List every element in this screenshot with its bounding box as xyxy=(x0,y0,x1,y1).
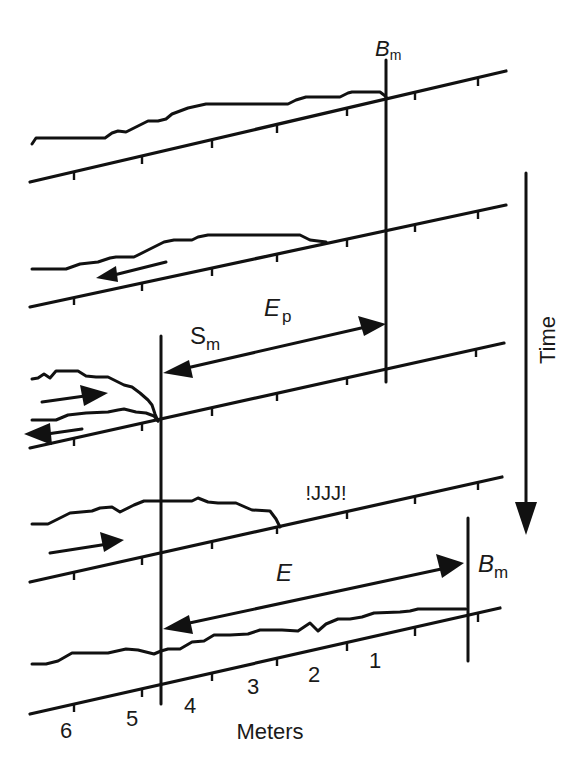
panel-3 xyxy=(24,343,504,448)
axis-tick-5: 5 xyxy=(126,706,138,731)
panel-4-profile xyxy=(32,498,280,527)
axis-tick-3: 3 xyxy=(247,674,259,699)
panel-5 xyxy=(30,608,500,714)
ep-arrow-head-left xyxy=(163,360,193,378)
panel-3-offshore-arrow-head xyxy=(24,423,52,445)
jjj-label: !JJJ! xyxy=(305,482,346,504)
panel-4: !JJJ! xyxy=(30,477,502,582)
panel-3-lower-profile xyxy=(32,409,158,421)
e-arrow-shaft xyxy=(180,568,446,625)
e-arrow-head-left xyxy=(163,615,193,634)
panel-2 xyxy=(30,205,506,307)
axis-tick-1: 1 xyxy=(369,648,381,673)
panel-3-onshore-arrow-head xyxy=(80,385,108,406)
panel-5-profile xyxy=(32,609,466,664)
time-arrow-head xyxy=(515,502,537,535)
time-axis: Time xyxy=(515,173,560,535)
panel-4-onshore-arrow-head xyxy=(100,532,124,552)
panel-1-baseline xyxy=(30,71,506,182)
axis-tick-2: 2 xyxy=(308,662,320,687)
beach-profile-diagram: Bm Ep Sm xyxy=(0,0,584,778)
e-arrow-head-right xyxy=(436,554,464,578)
time-label: Time xyxy=(535,316,560,364)
ep-label: Ep xyxy=(264,294,291,326)
panel-4-onshore-arrow-shaft xyxy=(50,544,108,553)
panel-2-offshore-arrow-head xyxy=(96,266,118,282)
sm-label: Sm xyxy=(190,322,220,354)
panel-4-baseline xyxy=(30,477,502,582)
ep-arrow-head-right xyxy=(358,316,386,336)
bm-bottom-label: Bm xyxy=(478,550,508,582)
panel-5-baseline xyxy=(30,608,500,714)
axis-tick-6: 6 xyxy=(60,718,72,743)
panel-2-offshore-arrow-shaft xyxy=(110,262,166,276)
e-dimension: E xyxy=(163,554,464,634)
e-label: E xyxy=(276,559,293,586)
axis-tick-4: 4 xyxy=(184,693,196,718)
panel-2-baseline xyxy=(30,205,506,307)
panel-1: Bm xyxy=(30,36,506,382)
bm-top-label: Bm xyxy=(375,36,401,63)
panel-1-profile xyxy=(32,92,386,144)
axis-title-meters: Meters xyxy=(236,719,303,744)
